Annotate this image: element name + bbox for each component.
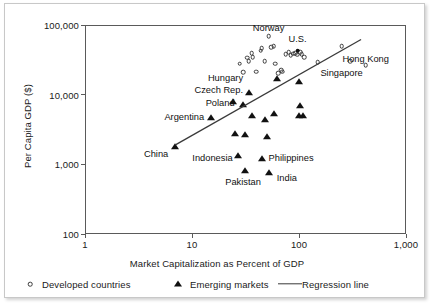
x-axis-label: Market Capitalization as Percent of GDP <box>0 258 434 269</box>
developed-country-point <box>266 34 271 39</box>
point-label-philippines: Philippines <box>269 153 314 163</box>
x-tick-mark <box>406 234 407 238</box>
emerging-market-point <box>299 113 307 119</box>
developed-country-point <box>280 69 285 74</box>
developed-country-point <box>339 44 344 49</box>
y-tick-label: 1,000 <box>13 159 79 170</box>
emerging-market-point <box>171 144 179 150</box>
point-label-poland: Poland <box>206 98 235 108</box>
emerging-market-point <box>207 114 215 120</box>
legend-marker-regression-line <box>278 283 302 284</box>
point-label-u-s: U.S. <box>289 34 307 44</box>
emerging-market-point <box>258 155 266 161</box>
point-label-indonesia: Indonesia <box>192 153 232 163</box>
developed-country-point <box>316 60 321 65</box>
legend-label-developed-countries: Developed countries <box>42 279 131 290</box>
x-tick-mark <box>192 234 193 238</box>
emerging-market-point <box>295 79 303 85</box>
x-tick-mark <box>85 234 86 238</box>
emerging-market-point <box>265 169 273 175</box>
emerging-market-point <box>231 131 239 137</box>
emerging-market-point <box>270 111 278 117</box>
emerging-market-point <box>263 133 271 139</box>
y-tick-mark <box>81 94 85 95</box>
point-label-argentina: Argentina <box>164 112 204 122</box>
developed-country-point <box>273 61 278 66</box>
x-tick-label: 100 <box>269 239 329 250</box>
developed-country-point <box>271 44 276 49</box>
y-tick-label: 100 <box>13 229 79 240</box>
developed-country-point <box>238 61 243 66</box>
emerging-market-point <box>241 168 249 174</box>
developed-country-point <box>247 59 252 64</box>
chart-legend: Developed countriesEmerging marketsRegre… <box>0 274 434 294</box>
point-label-czech-rep: Czech Rep. <box>194 85 243 95</box>
developed-country-point <box>302 55 307 60</box>
developed-country-point <box>254 69 259 74</box>
legend-label-regression-line: Regression line <box>302 279 369 290</box>
point-label-hungary: Hungary <box>208 73 243 83</box>
emerging-market-point <box>296 103 304 109</box>
emerging-market-point <box>241 132 249 138</box>
x-tick-mark <box>299 234 300 238</box>
emerging-market-point <box>261 116 269 122</box>
emerging-market-point <box>234 153 242 159</box>
emerging-market-point <box>239 101 247 107</box>
x-tick-label: 1 <box>55 239 115 250</box>
emerging-market-point <box>248 113 256 119</box>
emerging-market-point <box>273 75 281 81</box>
scatter-chart-figure: Per Capita GDP ($) Market Capitalization… <box>0 0 434 308</box>
x-tick-label: 1,000 <box>376 239 434 250</box>
y-tick-label: 10,000 <box>13 89 79 100</box>
developed-country-point <box>263 59 268 64</box>
developed-country-point <box>363 63 368 68</box>
point-label-pakistan: Pakistan <box>225 177 261 187</box>
legend-label-emerging-markets: Emerging markets <box>190 279 269 290</box>
united-states-point <box>295 48 300 53</box>
y-tick-mark <box>81 164 85 165</box>
developed-country-point <box>251 55 256 60</box>
emerging-market-point <box>245 89 253 95</box>
y-tick-mark <box>81 25 85 26</box>
developed-country-point <box>260 46 265 51</box>
point-label-hong-kong: Hong Kong <box>342 54 389 64</box>
point-label-singapore: Singapore <box>320 68 362 78</box>
y-tick-label: 100,000 <box>13 20 79 31</box>
legend-marker-emerging-markets <box>174 281 182 287</box>
point-label-india: India <box>277 173 297 183</box>
x-tick-label: 10 <box>162 239 222 250</box>
point-label-china: China <box>144 149 168 159</box>
point-label-norway: Norway <box>253 23 285 33</box>
legend-marker-developed-countries <box>28 282 33 287</box>
